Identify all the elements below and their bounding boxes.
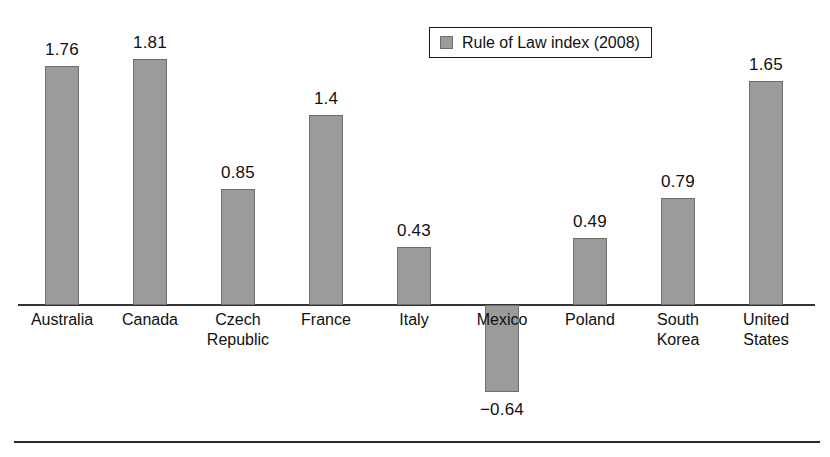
bar-group: 1.81Canada [106, 0, 194, 430]
bar-value-label: 1.76 [18, 40, 106, 60]
category-label: SouthKorea [628, 310, 728, 350]
bar-value-label: 1.65 [722, 55, 810, 75]
bar-value-label: −0.64 [458, 400, 546, 420]
bar-group: 1.76Australia [18, 0, 106, 430]
bar-value-label: 0.49 [546, 212, 634, 232]
bar[interactable] [309, 115, 343, 305]
category-label: France [276, 310, 376, 330]
bar[interactable] [661, 198, 695, 305]
bar-group: 1.65UnitedStates [722, 0, 810, 430]
bar[interactable] [221, 189, 255, 305]
category-label: Canada [100, 310, 200, 330]
bar-value-label: 0.85 [194, 163, 282, 183]
bar-group: 0.43Italy [370, 0, 458, 430]
category-label: UnitedStates [716, 310, 816, 350]
bar[interactable] [397, 247, 431, 305]
legend-label: Rule of Law index (2008) [462, 34, 640, 52]
footer-rule [14, 441, 820, 443]
bar-group: 0.85CzechRepublic [194, 0, 282, 430]
bar-value-label: 1.4 [282, 89, 370, 109]
category-label: Australia [12, 310, 112, 330]
bar-value-label: 1.81 [106, 33, 194, 53]
category-label: Mexico [452, 310, 552, 330]
bar[interactable] [45, 66, 79, 305]
bar-group: −0.64Mexico [458, 0, 546, 430]
bar-group: 1.4France [282, 0, 370, 430]
bar[interactable] [749, 81, 783, 305]
bar[interactable] [573, 238, 607, 305]
bar-value-label: 0.79 [634, 172, 722, 192]
bar-chart-figure: 1.76Australia1.81Canada0.85CzechRepublic… [0, 0, 830, 457]
category-label: CzechRepublic [188, 310, 288, 350]
category-label: Italy [364, 310, 464, 330]
legend-swatch-icon [440, 36, 453, 49]
chart-legend: Rule of Law index (2008) [429, 27, 652, 58]
bar[interactable] [133, 59, 167, 305]
bar-value-label: 0.43 [370, 221, 458, 241]
category-label: Poland [540, 310, 640, 330]
bar-group: 0.49Poland [546, 0, 634, 430]
plot-area: 1.76Australia1.81Canada0.85CzechRepublic… [0, 0, 830, 430]
bar-group: 0.79SouthKorea [634, 0, 722, 430]
